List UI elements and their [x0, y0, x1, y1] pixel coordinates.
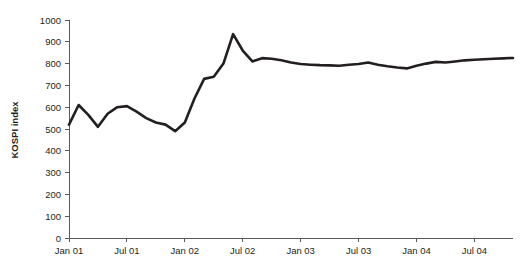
y-tick-label: 100: [45, 211, 61, 222]
y-tick-label: 300: [45, 167, 61, 178]
y-axis-ticks: [65, 20, 69, 238]
kospi-index-line-chart: 01002003004005006007008009001000 Jan 01J…: [0, 0, 524, 275]
x-axis-tick-labels: Jan 01Jul 01Jan 02Jul 02Jan 03Jul 03Jan …: [55, 245, 487, 256]
y-tick-label: 900: [45, 36, 61, 47]
x-tick-label: Jul 03: [346, 245, 371, 256]
y-axis-title: KOSPI index: [9, 101, 20, 159]
series-line-kospi-index: [69, 34, 513, 131]
y-tick-label: 600: [45, 102, 61, 113]
y-tick-label: 0: [56, 233, 61, 244]
x-tick-label: Jan 02: [171, 245, 200, 256]
x-tick-label: Jan 03: [286, 245, 315, 256]
y-tick-label: 1000: [40, 15, 61, 26]
x-axis-ticks: [69, 238, 474, 242]
x-tick-label: Jan 01: [55, 245, 84, 256]
y-tick-label: 800: [45, 58, 61, 69]
x-axis-group: Jan 01Jul 01Jan 02Jul 02Jan 03Jul 03Jan …: [55, 238, 513, 256]
y-tick-label: 500: [45, 124, 61, 135]
chart-plot-area: 01002003004005006007008009001000 Jan 01J…: [0, 0, 524, 275]
y-tick-label: 400: [45, 145, 61, 156]
y-tick-label: 700: [45, 80, 61, 91]
x-tick-label: Jul 01: [114, 245, 139, 256]
data-series-group: [69, 34, 513, 131]
x-tick-label: Jul 02: [230, 245, 255, 256]
y-axis-group: 01002003004005006007008009001000: [40, 15, 69, 244]
y-axis-tick-labels: 01002003004005006007008009001000: [40, 15, 61, 244]
y-tick-label: 200: [45, 189, 61, 200]
x-tick-label: Jan 04: [402, 245, 431, 256]
x-tick-label: Jul 04: [462, 245, 487, 256]
